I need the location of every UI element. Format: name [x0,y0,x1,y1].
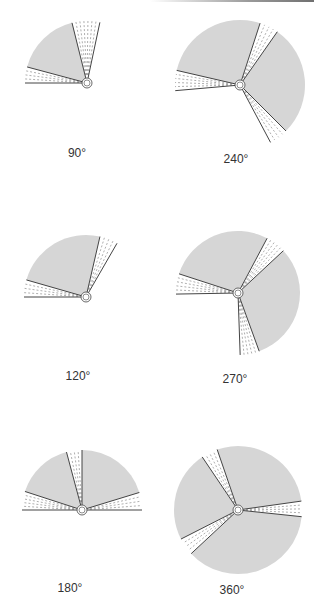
panel-label-240: 240° [224,152,249,166]
pivot-outer-circle [233,288,243,298]
pivot-outer-circle [235,80,245,90]
panel-label-360: 360° [220,583,245,597]
pivot-outer-circle [77,505,87,515]
sector-diagram-120 [24,235,117,302]
panel-label-270: 270° [223,372,248,386]
pivot-outer-circle [82,78,92,88]
sector-diagram-90 [25,21,100,88]
sector-diagrams [0,0,314,606]
pivot-outer-circle [233,505,243,515]
pivot-outer-circle [81,292,91,302]
panel-label-120: 120° [66,369,91,383]
sector-diagram-240 [175,20,305,142]
sector-diagram-360 [174,446,302,574]
sector-diagram-270 [176,231,300,355]
panel-label-90: 90° [68,146,86,160]
gray-sector [27,23,87,83]
sector-diagram-180 [22,450,142,515]
panel-label-180: 180° [58,581,83,595]
gray-sector [25,452,82,510]
